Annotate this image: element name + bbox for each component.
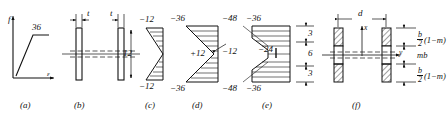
panel-c-bottom-value: −12	[139, 81, 154, 91]
panel-b-thickness-dims	[70, 14, 124, 27]
panel-f-top-label: b 2 (1−m)	[417, 31, 446, 48]
panel-e-bottom-inner-value: −36	[246, 83, 261, 93]
panel-e-mid-value: −24	[258, 44, 273, 54]
panel-f-top-label-numerator: b	[418, 31, 422, 39]
panel-d-mid-value: +12	[190, 48, 205, 58]
panel-e-dim-mid: 6	[308, 48, 313, 58]
panel-f-bottom-label-rest: (1−m)	[424, 71, 446, 81]
panel-a-axis-x-label: ε	[47, 70, 50, 78]
panel-d-bottom-value: −36	[170, 83, 185, 93]
panel-f-axis-y-label: y	[399, 48, 402, 57]
panel-f-bottom-label: b 2 (1−m)	[417, 67, 446, 84]
panel-b-thickness-label-2: t	[110, 8, 113, 18]
panel-e-top-outer-value: −48	[222, 13, 237, 23]
panel-e-top-inner-value: −36	[246, 13, 261, 23]
panel-f-top-label-denominator: 2	[417, 39, 423, 48]
panel-e-distribution	[243, 26, 290, 82]
panel-c-distribution	[146, 28, 163, 80]
panel-d-caption: (d)	[192, 100, 203, 110]
panel-c-top-value: −12	[139, 14, 154, 24]
panel-d-top-value: −36	[170, 13, 185, 23]
panel-f-top-label-rest: (1−m)	[424, 35, 446, 45]
panel-a-axis-y-label: f	[8, 14, 11, 24]
panel-e-left-mid-value: −12	[222, 46, 237, 56]
panel-a-caption: (a)	[20, 100, 31, 110]
panel-e-bottom-outer-value: −48	[222, 83, 237, 93]
panel-f-axis-x-label: x	[364, 23, 367, 32]
panel-f-bottom-label-denominator: 2	[417, 75, 423, 84]
panel-b-caption: (b)	[74, 100, 85, 110]
panel-b-thickness-label-1: t	[87, 8, 90, 18]
panel-f-mid-label: mb	[417, 50, 427, 60]
panel-c-depth-dim: 12	[123, 48, 132, 58]
panel-c-caption: (c)	[145, 100, 155, 110]
panel-f-width-dim: d	[358, 8, 363, 18]
figure-stress-distribution-diagram: f ε 36 (a) t t (b) −12 −12 12 (c) −36 +1…	[0, 0, 448, 122]
panel-a-plateau-value: 36	[32, 22, 41, 32]
panel-e-dim-bottom: 3	[308, 68, 313, 78]
panel-e-dim-top: 3	[308, 28, 313, 38]
panel-f-caption: (f)	[352, 100, 361, 110]
panel-e-caption: (e)	[262, 100, 272, 110]
panel-f-bottom-label-numerator: b	[418, 67, 422, 75]
